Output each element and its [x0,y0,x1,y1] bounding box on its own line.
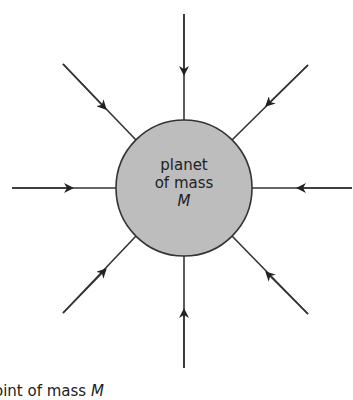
planet-label-line1: planet [116,156,252,174]
planet-label-line2: of mass [116,174,252,192]
caption-text: oint of mass [0,382,91,400]
caption-mass-symbol: M [91,382,104,400]
planet-mass-symbol: M [116,192,252,210]
caption: oint of mass M [0,382,104,400]
planet-label: planet of mass M [116,156,252,210]
